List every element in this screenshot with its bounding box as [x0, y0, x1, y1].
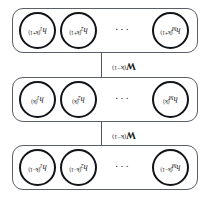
node-superscript: (k−1)	[28, 167, 40, 173]
node-base-symbol: h	[42, 26, 46, 36]
layer-box-k-minus-1: hM(k−1) ··· h2(k−1) h1(k−1)	[12, 145, 198, 190]
node-superscript: (k+1)	[69, 30, 81, 36]
node-h-M-k: hM(k)	[152, 81, 189, 118]
node-base-symbol: h	[176, 163, 180, 173]
node-superscript: (k)	[163, 99, 169, 105]
node-h-M-k-minus-1: hM(k−1)	[152, 149, 189, 186]
node-subscript: 1	[40, 163, 43, 169]
node-base-symbol: h	[40, 95, 44, 105]
weight-matrix-symbol: W	[126, 130, 136, 141]
node-subscript: M	[172, 163, 177, 169]
node-base-symbol: h	[42, 163, 46, 173]
node-subscript: 2	[81, 26, 84, 32]
node-superscript: (k)	[31, 99, 37, 105]
weight-matrix-superscript: (k−1)	[112, 134, 126, 141]
node-label: hM(k)	[163, 95, 177, 105]
node-label: h1(k+1)	[28, 26, 46, 36]
node-h-2-k-plus-1: h2(k+1)	[60, 12, 97, 49]
node-label: hM(k−1)	[160, 163, 180, 173]
node-label: h2(k+1)	[69, 26, 87, 36]
node-h-M-k-plus-1: hM(k+1)	[152, 12, 189, 49]
connector-label-weights-upper: W(k−1)	[112, 130, 136, 140]
node-subscript: 1	[37, 95, 40, 101]
node-base-symbol: h	[176, 26, 180, 36]
connector-line-lower	[101, 53, 102, 77]
node-subscript: 2	[81, 163, 84, 169]
node-h-1-k-minus-1: h1(k−1)	[19, 149, 56, 186]
row-ellipsis: ···	[101, 157, 141, 177]
node-h-1-k-plus-1: h1(k+1)	[19, 12, 56, 49]
node-superscript: (k−1)	[160, 167, 172, 173]
layer-box-k: hM(k) ··· h2(k) h1(k)	[12, 77, 198, 122]
connector-label-weights-lower: W(k−1)	[112, 61, 136, 71]
row-ellipsis: ···	[101, 89, 141, 109]
node-base-symbol: h	[83, 26, 87, 36]
node-superscript: (k+1)	[160, 30, 172, 36]
node-label: h1(k−1)	[28, 163, 46, 173]
node-h-2-k: h2(k)	[60, 81, 97, 118]
connector-line-upper	[101, 122, 102, 145]
weight-matrix-symbol: W	[126, 61, 136, 72]
node-base-symbol: h	[81, 95, 85, 105]
weight-matrix-superscript: (k−1)	[112, 65, 126, 72]
node-subscript: 1	[40, 26, 43, 32]
node-label: hM(k+1)	[160, 26, 180, 36]
node-h-1-k: h1(k)	[19, 81, 56, 118]
node-superscript: (k)	[72, 99, 78, 105]
layered-network-diagram: hM(k−1) ··· h2(k−1) h1(k−1) W(k−1) hM(k)…	[0, 0, 208, 197]
row-ellipsis: ···	[101, 20, 141, 40]
layer-box-k-plus-1: hM(k+1) ··· h2(k+1) h1(k+1)	[12, 8, 198, 53]
node-h-2-k-minus-1: h2(k−1)	[60, 149, 97, 186]
node-label: h2(k−1)	[69, 163, 87, 173]
node-label: h2(k)	[72, 95, 85, 105]
node-subscript: 2	[78, 95, 81, 101]
node-base-symbol: h	[83, 163, 87, 173]
node-label: h1(k)	[31, 95, 44, 105]
node-subscript: M	[172, 26, 177, 32]
node-base-symbol: h	[174, 95, 178, 105]
node-superscript: (k+1)	[28, 30, 40, 36]
node-superscript: (k−1)	[69, 167, 81, 173]
